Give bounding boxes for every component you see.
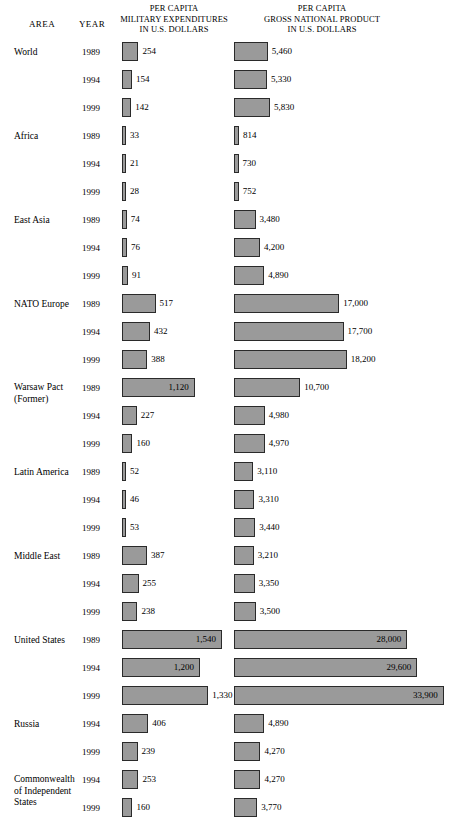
year-label: 1989 bbox=[68, 467, 114, 477]
military-bar bbox=[122, 210, 127, 229]
gnp-bar bbox=[234, 434, 265, 453]
gnp-bar-group: 3,210 bbox=[234, 546, 278, 565]
military-value-label: 387 bbox=[151, 546, 165, 565]
year-label: 1994 bbox=[68, 775, 114, 785]
column-header-year: YEAR bbox=[70, 19, 114, 29]
gnp-value-label: 17,700 bbox=[348, 322, 373, 341]
military-bar bbox=[122, 266, 128, 285]
military-bar bbox=[122, 434, 132, 453]
military-bar-group: 239 bbox=[122, 742, 155, 761]
gnp-bar-group: 5,830 bbox=[234, 98, 294, 117]
military-value-label: 74 bbox=[131, 210, 140, 229]
military-bar-group: 227 bbox=[122, 406, 154, 425]
gnp-bar bbox=[234, 238, 260, 257]
gnp-bar bbox=[234, 154, 239, 173]
year-label: 1999 bbox=[68, 803, 114, 813]
gnp-bar-group: 814 bbox=[234, 126, 257, 145]
table-row: 19942553,350 bbox=[0, 574, 454, 602]
table-row: 199443217,700 bbox=[0, 322, 454, 350]
gnp-bar-group: 4,970 bbox=[234, 434, 289, 453]
gnp-bar bbox=[234, 406, 265, 425]
gnp-value-label: 3,350 bbox=[259, 574, 279, 593]
gnp-bar: 33,900 bbox=[234, 686, 444, 705]
gnp-bar bbox=[234, 266, 264, 285]
chart-header: AREA YEAR PER CAPITA MILITARY EXPENDITUR… bbox=[0, 0, 454, 38]
year-label: 1999 bbox=[68, 187, 114, 197]
gnp-bar: 28,000 bbox=[234, 630, 407, 649]
gnp-title-line-3: IN U.S. DOLLARS bbox=[232, 24, 412, 35]
military-value-label: 253 bbox=[142, 770, 156, 789]
gnp-bar bbox=[234, 70, 267, 89]
military-title-line-2: MILITARY EXPENDITURES bbox=[118, 14, 230, 25]
gnp-bar-group: 3,350 bbox=[234, 574, 279, 593]
gnp-value-label: 18,200 bbox=[351, 350, 376, 369]
military-value-label: 1,330 bbox=[212, 686, 232, 705]
column-header-gross-national-product: PER CAPITA GROSS NATIONAL PRODUCT IN U.S… bbox=[232, 3, 412, 35]
gnp-value-label: 3,110 bbox=[257, 462, 277, 481]
year-label: 1994 bbox=[68, 243, 114, 253]
year-label: 1989 bbox=[68, 131, 114, 141]
gnp-value-label: 3,210 bbox=[258, 546, 278, 565]
military-value-label: 46 bbox=[130, 490, 139, 509]
gnp-bar: 29,600 bbox=[234, 658, 417, 677]
military-value-label: 76 bbox=[131, 238, 140, 257]
gnp-bar bbox=[234, 602, 256, 621]
gnp-bar-group: 4,890 bbox=[234, 266, 289, 285]
gnp-value-label: 814 bbox=[243, 126, 257, 145]
military-bar bbox=[122, 154, 126, 173]
military-bar-group: 33 bbox=[122, 126, 139, 145]
year-label: 1999 bbox=[68, 747, 114, 757]
military-bar-group: 1,330 bbox=[122, 686, 233, 705]
gnp-bar bbox=[234, 182, 239, 201]
gnp-bar-group: 5,460 bbox=[234, 42, 292, 61]
military-value-label: 52 bbox=[130, 462, 139, 481]
table-row: 19992383,500 bbox=[0, 602, 454, 630]
gnp-bar-group: 29,600 bbox=[234, 658, 417, 677]
military-value-label: 21 bbox=[130, 154, 139, 173]
gnp-value-label: 5,830 bbox=[274, 98, 294, 117]
military-value-label: 1,540 bbox=[196, 631, 216, 648]
table-row: 19991,33033,900 bbox=[0, 686, 454, 714]
military-title-line-1: PER CAPITA bbox=[118, 3, 230, 14]
gnp-bar-group: 5,330 bbox=[234, 70, 291, 89]
gnp-bar bbox=[234, 294, 339, 313]
gnp-value-label: 3,500 bbox=[260, 602, 280, 621]
table-row: East Asia1989743,480 bbox=[0, 210, 454, 238]
year-label: 1999 bbox=[68, 355, 114, 365]
gnp-title-line-2: GROSS NATIONAL PRODUCT bbox=[232, 14, 412, 25]
military-bar bbox=[122, 574, 139, 593]
gnp-bar bbox=[234, 742, 260, 761]
gnp-bar bbox=[234, 322, 344, 341]
gnp-bar bbox=[234, 574, 255, 593]
year-label: 1999 bbox=[68, 439, 114, 449]
table-row: 19941,20029,600 bbox=[0, 658, 454, 686]
military-value-label: 432 bbox=[154, 322, 168, 341]
military-bar-group: 253 bbox=[122, 770, 156, 789]
military-bar bbox=[122, 238, 127, 257]
military-value-label: 33 bbox=[130, 126, 139, 145]
military-value-label: 388 bbox=[151, 350, 165, 369]
military-value-label: 1,200 bbox=[174, 659, 194, 676]
military-bar: 1,540 bbox=[122, 630, 222, 649]
gnp-bar-group: 3,440 bbox=[234, 518, 280, 537]
gnp-value-label: 4,270 bbox=[264, 770, 284, 789]
gnp-title-line-1: PER CAPITA bbox=[232, 3, 412, 14]
year-label: 1989 bbox=[68, 383, 114, 393]
military-bar-group: 74 bbox=[122, 210, 140, 229]
military-bar-group: 406 bbox=[122, 714, 166, 733]
military-bar-group: 387 bbox=[122, 546, 165, 565]
table-row: United States19891,54028,000 bbox=[0, 630, 454, 658]
military-bar bbox=[122, 462, 126, 481]
military-bar bbox=[122, 98, 131, 117]
gnp-bar-group: 3,310 bbox=[234, 490, 279, 509]
military-bar bbox=[122, 42, 138, 61]
military-bar bbox=[122, 546, 147, 565]
gnp-value-label: 10,700 bbox=[304, 378, 329, 397]
gnp-bar-group: 17,000 bbox=[234, 294, 368, 313]
gnp-bar-group: 10,700 bbox=[234, 378, 329, 397]
gnp-value-label: 3,440 bbox=[259, 518, 279, 537]
year-label: 1994 bbox=[68, 75, 114, 85]
gnp-value-label: 3,770 bbox=[261, 798, 281, 817]
military-bar bbox=[122, 70, 132, 89]
military-bar bbox=[122, 182, 126, 201]
